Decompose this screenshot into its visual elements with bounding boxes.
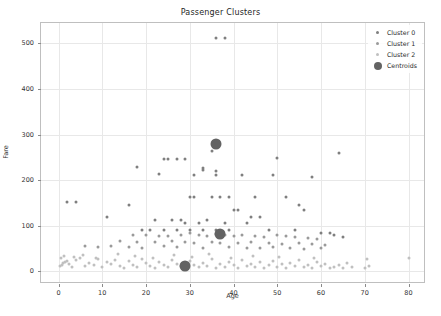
data-point [350, 265, 353, 268]
data-point [232, 263, 235, 266]
data-point [140, 258, 143, 261]
data-point [188, 195, 191, 198]
data-point [158, 172, 161, 175]
data-point [88, 262, 91, 265]
legend-marker-icon [372, 62, 384, 70]
data-point [250, 241, 253, 244]
data-point [320, 246, 323, 249]
data-point [79, 257, 82, 260]
data-point [258, 215, 261, 218]
data-point [171, 259, 174, 262]
data-point [337, 263, 340, 266]
data-point [184, 221, 187, 224]
y-axis-tick [38, 226, 41, 227]
data-point [313, 256, 316, 259]
data-point [278, 255, 281, 258]
data-point [232, 209, 235, 212]
data-point [206, 234, 209, 237]
data-point [320, 264, 323, 267]
data-point [175, 157, 178, 160]
data-points-layer [41, 23, 424, 282]
data-point [136, 166, 139, 169]
data-point [341, 235, 344, 238]
data-point [173, 253, 176, 256]
data-point [134, 254, 137, 257]
data-point [123, 266, 126, 269]
data-point [162, 245, 165, 248]
data-point [197, 233, 200, 236]
data-point [263, 235, 266, 238]
data-point [188, 232, 191, 235]
y-axis-tick-label: 500 [22, 39, 34, 47]
legend-marker-icon [372, 42, 384, 45]
data-point [365, 258, 368, 261]
data-point [236, 242, 239, 245]
data-point [175, 246, 178, 249]
data-point [302, 209, 305, 212]
y-axis-tick [38, 89, 41, 90]
data-point [149, 264, 152, 267]
data-point [105, 261, 108, 264]
data-point [293, 264, 296, 267]
data-point [215, 169, 218, 172]
data-point [276, 265, 279, 268]
legend-item-cluster-0[interactable]: Cluster 0 [372, 28, 417, 37]
legend-item-cluster-1[interactable]: Cluster 1 [372, 39, 417, 48]
data-point [315, 261, 318, 264]
data-point [180, 218, 183, 221]
data-point [210, 240, 213, 243]
data-point [298, 203, 301, 206]
data-point [276, 234, 279, 237]
data-point [110, 244, 113, 247]
data-point [96, 246, 99, 249]
legend-label: Centroids [387, 62, 417, 69]
data-point [252, 254, 255, 257]
legend-label: Cluster 2 [387, 51, 415, 58]
y-axis-tick [38, 135, 41, 136]
data-point [324, 262, 327, 265]
centroid-marker [215, 228, 226, 239]
legend-item-cluster-2[interactable]: Cluster 2 [372, 50, 417, 59]
data-point [62, 254, 65, 257]
data-point [210, 258, 213, 261]
data-point [208, 252, 211, 255]
data-point [118, 264, 121, 267]
page-title: Passenger Clusters [0, 8, 441, 17]
data-point [81, 253, 84, 256]
scatter-plot-figure: Passenger Clusters Cluster 0Cluster 1Clu… [0, 0, 441, 316]
data-point [140, 228, 143, 231]
data-point [280, 242, 283, 245]
legend-item-centroids[interactable]: Centroids [372, 61, 417, 70]
data-point [206, 264, 209, 267]
data-point [285, 266, 288, 269]
data-point [92, 263, 95, 266]
data-point [201, 247, 204, 250]
data-point [215, 174, 218, 177]
data-point [193, 242, 196, 245]
data-point [136, 240, 139, 243]
legend-swatch [376, 42, 379, 45]
data-point [171, 240, 174, 243]
data-point [193, 263, 196, 266]
data-point [285, 235, 288, 238]
x-axis-tick [409, 284, 410, 287]
x-axis-tick [277, 284, 278, 287]
data-point [241, 233, 244, 236]
data-point [298, 259, 301, 262]
data-point [151, 256, 154, 259]
data-point [337, 151, 340, 154]
data-point [70, 265, 73, 268]
data-point [210, 150, 213, 153]
data-point [193, 174, 196, 177]
data-point [368, 264, 371, 267]
data-point [271, 174, 274, 177]
data-point [228, 195, 231, 198]
data-point [223, 37, 226, 40]
data-point [75, 201, 78, 204]
centroid-marker [180, 260, 191, 271]
x-axis-tick [102, 284, 103, 287]
data-point [166, 265, 169, 268]
data-point [210, 195, 213, 198]
data-point [215, 266, 218, 269]
data-point [127, 260, 130, 263]
